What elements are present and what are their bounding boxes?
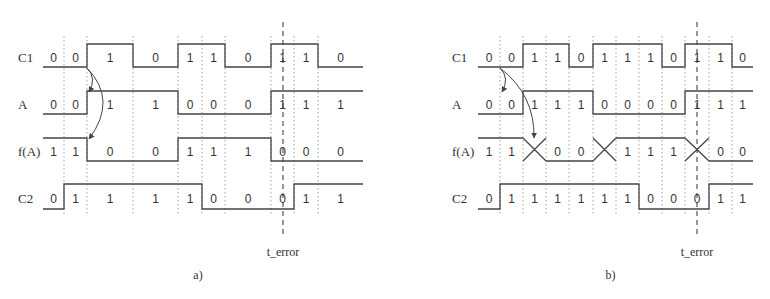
bit-value: 0 <box>486 192 493 206</box>
waveform <box>43 91 363 114</box>
bit-value: 1 <box>554 98 561 112</box>
bit-value: 0 <box>508 98 515 112</box>
bit-value: 1 <box>107 98 114 112</box>
bit-value: 1 <box>578 98 585 112</box>
bit-value: 0 <box>72 51 79 65</box>
bit-value: 1 <box>647 51 654 65</box>
bit-value: 1 <box>739 192 746 206</box>
bit-value: 1 <box>187 192 194 206</box>
bit-value: 0 <box>647 192 654 206</box>
causality-arrow <box>87 68 103 139</box>
bit-value: 0 <box>486 51 493 65</box>
bit-value: 0 <box>739 51 746 65</box>
bit-value: 0 <box>245 98 252 112</box>
bit-value: 1 <box>578 192 585 206</box>
bit-value: 1 <box>554 51 561 65</box>
bit-value: 1 <box>531 98 538 112</box>
signal-label: C2 <box>18 191 33 206</box>
waveform <box>43 138 363 161</box>
bit-value: 1 <box>279 51 286 65</box>
bit-value: 0 <box>50 192 57 206</box>
timing-diagram-b: t_errorb)C1001101110110A001110000111f(A)… <box>452 22 753 282</box>
bit-value: 1 <box>486 145 493 159</box>
bit-value: 0 <box>624 98 631 112</box>
bit-value: 1 <box>531 192 538 206</box>
bit-value: 0 <box>107 145 114 159</box>
signal-label: C1 <box>18 50 33 65</box>
bit-value: 1 <box>303 192 310 206</box>
bit-value: 1 <box>279 98 286 112</box>
bit-value: 1 <box>210 51 217 65</box>
bit-value: 1 <box>508 192 515 206</box>
bit-value: 0 <box>279 192 286 206</box>
bit-value: 1 <box>647 145 654 159</box>
bit-value: 0 <box>187 98 194 112</box>
bit-value: 1 <box>601 192 608 206</box>
bit-value: 1 <box>694 98 701 112</box>
bit-value: 0 <box>50 98 57 112</box>
bit-value: 1 <box>50 145 57 159</box>
bit-value: 1 <box>337 98 344 112</box>
bit-value: 0 <box>717 145 724 159</box>
bit-value: 1 <box>187 51 194 65</box>
bit-value: 1 <box>337 192 344 206</box>
bit-value: 0 <box>152 51 159 65</box>
waveform <box>43 44 363 67</box>
bit-value: 1 <box>508 145 515 159</box>
waveform <box>478 44 753 67</box>
bit-value: 0 <box>670 51 677 65</box>
bit-value: 0 <box>337 145 344 159</box>
bit-value: 0 <box>303 145 310 159</box>
bit-value: 1 <box>717 98 724 112</box>
bit-value: 0 <box>245 192 252 206</box>
bit-value: 0 <box>337 51 344 65</box>
t-error-label: t_error <box>681 245 714 259</box>
waveform <box>478 138 753 161</box>
bit-value: 1 <box>601 51 608 65</box>
signal-label: A <box>18 97 28 112</box>
bit-value: 0 <box>670 192 677 206</box>
bit-value: 0 <box>670 98 677 112</box>
bit-value: 1 <box>72 192 79 206</box>
bit-value: 1 <box>717 51 724 65</box>
bit-value: 0 <box>210 192 217 206</box>
waveform <box>478 91 753 114</box>
bit-value: 1 <box>210 145 217 159</box>
bit-value: 0 <box>601 98 608 112</box>
bit-value: 0 <box>50 51 57 65</box>
bit-value: 1 <box>554 192 561 206</box>
waveform <box>43 184 363 209</box>
signal-label: f(A) <box>18 144 40 159</box>
bit-value: 0 <box>554 145 561 159</box>
diagram-caption: a) <box>193 268 202 282</box>
signal-label: A <box>452 97 462 112</box>
bit-value: 1 <box>531 51 538 65</box>
signal-label: C2 <box>452 191 467 206</box>
bit-value: 1 <box>624 145 631 159</box>
bit-value: 0 <box>210 98 217 112</box>
bit-value: 1 <box>152 192 159 206</box>
bit-value: 1 <box>717 192 724 206</box>
signal-label: f(A) <box>452 144 474 159</box>
bit-value: 1 <box>107 192 114 206</box>
bit-value: 0 <box>578 51 585 65</box>
bit-value: 1 <box>670 145 677 159</box>
bit-value: 1 <box>303 51 310 65</box>
waveform <box>478 184 753 209</box>
bit-value: 0 <box>694 192 701 206</box>
timing-diagram-a: t_errora)C10010110110A0011000111f(A)1100… <box>18 22 363 282</box>
bit-value: 1 <box>739 98 746 112</box>
bit-value: 0 <box>486 98 493 112</box>
bit-value: 0 <box>508 51 515 65</box>
bit-value: 1 <box>245 145 252 159</box>
bit-value: 1 <box>107 51 114 65</box>
bit-value: 1 <box>303 98 310 112</box>
bit-value: 1 <box>72 145 79 159</box>
bit-value: 0 <box>647 98 654 112</box>
signal-label: C1 <box>452 50 467 65</box>
bit-value: 1 <box>694 51 701 65</box>
bit-value: 1 <box>187 145 194 159</box>
bit-value: 0 <box>152 145 159 159</box>
bit-value: 1 <box>624 192 631 206</box>
bit-value: 0 <box>245 51 252 65</box>
